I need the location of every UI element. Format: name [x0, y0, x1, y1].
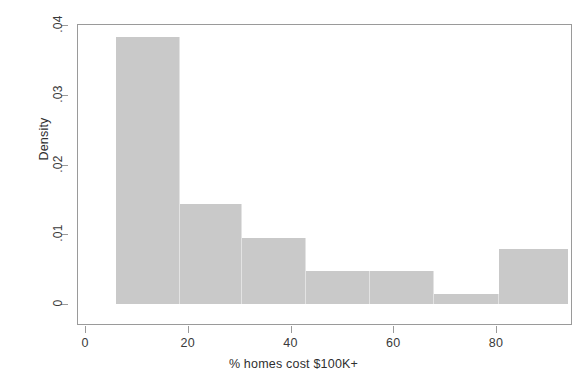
y-axis-tick-label: .03: [51, 85, 65, 103]
histogram-bar: [116, 37, 180, 304]
histogram-bar: [306, 271, 370, 304]
histogram-bar: [370, 271, 434, 304]
x-axis-tick-label: 40: [283, 336, 297, 350]
histogram-bar: [499, 249, 568, 304]
x-axis-title: % homes cost $100K+: [0, 357, 587, 371]
y-axis-tick-label: 0: [51, 300, 65, 307]
y-axis-title: Density: [37, 117, 51, 160]
histogram-bars: [78, 25, 571, 324]
x-axis-tick-label: 60: [386, 336, 400, 350]
y-axis-tick-label: .01: [51, 224, 65, 242]
histogram-figure: Density 0.01.02.03.04 020406080 % homes …: [0, 0, 587, 383]
histogram-bar: [242, 238, 306, 304]
x-axis-tick-mark: [85, 326, 86, 333]
x-axis-tick-label: 80: [489, 336, 503, 350]
histogram-bar: [180, 204, 242, 304]
x-axis-tick-mark: [496, 326, 497, 333]
x-axis-tick-mark: [188, 326, 189, 333]
x-axis-tick-label: 20: [181, 336, 195, 350]
y-axis-tick-label: .02: [51, 155, 65, 173]
y-axis-tick-label: .04: [51, 15, 65, 33]
x-axis: 020406080: [0, 325, 587, 383]
x-axis-tick-mark: [393, 326, 394, 333]
x-axis-tick-label: 0: [81, 336, 88, 350]
plot-area: [77, 24, 572, 325]
histogram-bar: [434, 294, 498, 304]
x-axis-tick-mark: [291, 326, 292, 333]
